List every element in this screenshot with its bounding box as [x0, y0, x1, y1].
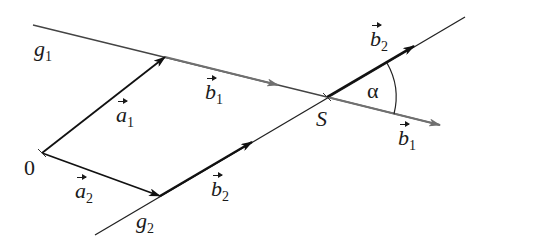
label-intersection-S: S — [316, 108, 327, 130]
label-b2-second: b2 — [370, 28, 388, 50]
label-g1-main: g — [34, 36, 45, 61]
label-b1-first: b1 — [205, 81, 223, 103]
label-a2: a2 — [75, 180, 93, 202]
label-g2: g2 — [136, 210, 154, 232]
vector-a2 — [42, 153, 160, 196]
label-g2-sub: 2 — [147, 221, 154, 236]
label-g2-main: g — [136, 208, 147, 233]
label-b2-first-sub: 2 — [222, 189, 229, 204]
label-a2-sub: 2 — [86, 191, 93, 206]
label-origin: 0 — [24, 157, 35, 179]
label-b2-first: b2 — [211, 178, 229, 200]
label-a1-sub: 1 — [127, 115, 134, 130]
label-b1-second-sub: 1 — [409, 138, 416, 153]
label-b2-first-main: b — [211, 178, 222, 200]
vector-b2-first — [160, 142, 252, 196]
label-b1-second: b1 — [398, 127, 416, 149]
vector-b1-second — [327, 97, 440, 125]
label-angle-alpha: α — [367, 80, 379, 102]
label-b1-first-sub: 1 — [216, 92, 223, 107]
label-g1-sub: 1 — [45, 49, 52, 64]
label-g1: g1 — [34, 38, 52, 60]
diagram-svg — [0, 0, 541, 250]
vector-geometry-diagram: g1 g2 0 S a1 a2 b1 b1 b2 b2 α — [0, 0, 541, 250]
angle-arc — [387, 63, 396, 114]
label-b1-second-main: b — [398, 127, 409, 149]
label-b2-second-main: b — [370, 28, 381, 50]
label-b2-second-sub: 2 — [381, 39, 388, 54]
label-a2-main: a — [75, 180, 86, 202]
label-a1: a1 — [116, 104, 134, 126]
label-b1-first-main: b — [205, 81, 216, 103]
label-a1-main: a — [116, 104, 127, 126]
vector-a1 — [42, 57, 165, 153]
